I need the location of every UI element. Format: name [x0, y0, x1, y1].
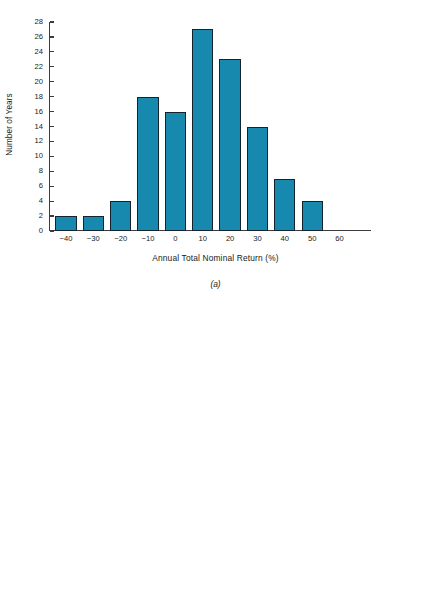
y-tick-label-a-20: 20: [35, 78, 43, 86]
y-tick-label-a-24: 24: [35, 48, 43, 56]
figure-panel-b: Number of Years 024681012141618202224262…: [0, 300, 431, 593]
bar-a-0: [55, 216, 76, 231]
y-tick-a-10: [50, 156, 54, 157]
bar-a-6: [219, 59, 240, 231]
y-tick-a-26: [50, 36, 54, 37]
x-tick-label-a-1: −30: [87, 235, 100, 243]
histogram-plot-a: 0246810121416182022242628−40−30−20−10010…: [49, 22, 365, 231]
y-tick-a-2: [50, 215, 54, 216]
y-tick-label-a-16: 16: [35, 108, 43, 116]
x-tick-label-a-10: 60: [335, 235, 343, 243]
bar-a-1: [83, 216, 104, 231]
y-tick-label-a-14: 14: [35, 123, 43, 131]
bar-group-a: [49, 22, 365, 231]
y-tick-a-12: [50, 141, 54, 142]
y-tick-a-4: [50, 201, 54, 202]
panel-caption-a: (a): [0, 279, 431, 289]
y-tick-a-24: [50, 51, 54, 52]
y-tick-a-16: [50, 111, 54, 112]
x-tick-label-a-5: 10: [199, 235, 207, 243]
y-tick-label-a-26: 26: [35, 33, 43, 41]
y-tick-a-18: [50, 96, 54, 97]
y-tick-label-a-10: 10: [35, 153, 43, 161]
y-tick-label-a-8: 8: [39, 167, 43, 175]
bar-a-9: [302, 201, 323, 231]
y-tick-label-a-4: 4: [39, 197, 43, 205]
y-tick-a-28: [50, 21, 54, 22]
bar-a-4: [165, 112, 186, 231]
x-tick-label-a-6: 20: [226, 235, 234, 243]
x-tick-label-a-7: 30: [253, 235, 261, 243]
x-tick-label-a-8: 40: [281, 235, 289, 243]
y-tick-label-a-22: 22: [35, 63, 43, 71]
bar-a-3: [137, 97, 158, 231]
bar-a-8: [274, 179, 295, 231]
figure-panel-a: Number of Years 024681012141618202224262…: [0, 0, 431, 300]
bar-a-5: [192, 29, 213, 231]
y-tick-a-22: [50, 66, 54, 67]
bar-a-7: [247, 127, 268, 232]
x-tick-label-a-3: −10: [142, 235, 155, 243]
x-tick-label-a-4: 0: [173, 235, 177, 243]
y-tick-a-6: [50, 186, 54, 187]
x-axis-title-a: Annual Total Nominal Return (%): [0, 253, 431, 263]
y-tick-a-14: [50, 126, 54, 127]
y-tick-label-a-12: 12: [35, 138, 43, 146]
y-axis-title-a: Number of Years: [5, 90, 14, 160]
x-tick-label-a-9: 50: [308, 235, 316, 243]
y-tick-a-20: [50, 81, 54, 82]
y-tick-a-0: [50, 230, 54, 231]
y-tick-label-a-18: 18: [35, 93, 43, 101]
y-tick-label-a-2: 2: [39, 212, 43, 220]
x-tick-label-a-0: −40: [60, 235, 73, 243]
y-tick-label-a-28: 28: [35, 18, 43, 26]
x-tick-label-a-2: −20: [114, 235, 127, 243]
bar-a-2: [110, 201, 131, 231]
y-tick-a-8: [50, 171, 54, 172]
y-tick-label-a-6: 6: [39, 182, 43, 190]
y-tick-label-a-0: 0: [39, 227, 43, 235]
